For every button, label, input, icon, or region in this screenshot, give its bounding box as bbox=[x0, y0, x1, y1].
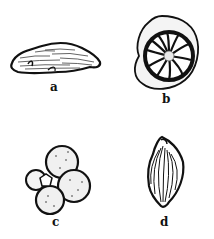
figure: a b bbox=[0, 0, 214, 239]
panel-b-label: b bbox=[162, 92, 170, 106]
panel-a: a bbox=[0, 0, 107, 120]
panel-c: c bbox=[0, 120, 107, 239]
panel-d: d bbox=[107, 120, 214, 239]
specimen-b-illustration bbox=[107, 0, 214, 120]
panel-b: b bbox=[107, 0, 214, 120]
specimen-a-illustration bbox=[0, 0, 107, 120]
panel-a-label: a bbox=[50, 80, 58, 94]
panel-d-label: d bbox=[160, 215, 168, 229]
panel-c-label: c bbox=[52, 215, 59, 229]
